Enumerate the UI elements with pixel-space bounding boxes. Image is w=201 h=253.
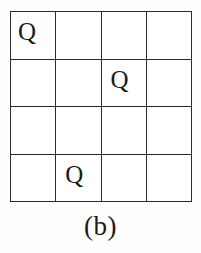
board-cell[interactable]: [147, 107, 192, 155]
queen-piece: Q: [102, 60, 146, 107]
board-cell[interactable]: Q: [56, 155, 101, 203]
board-cell[interactable]: [56, 12, 101, 60]
board-cell[interactable]: [11, 155, 56, 203]
board-cell[interactable]: [11, 107, 56, 155]
board-cell[interactable]: [147, 155, 192, 203]
board-cell[interactable]: [147, 60, 192, 108]
queen-piece: Q: [11, 12, 55, 59]
board-cell[interactable]: [11, 60, 56, 108]
board-cell[interactable]: Q: [102, 60, 147, 108]
board-cell[interactable]: [102, 12, 147, 60]
chessboard-grid: QQQ: [10, 11, 192, 202]
board-cell[interactable]: [56, 107, 101, 155]
board-cell[interactable]: [102, 155, 147, 203]
board-cell[interactable]: [56, 60, 101, 108]
board-cell[interactable]: [102, 107, 147, 155]
board-cell[interactable]: Q: [11, 12, 56, 60]
queen-piece: Q: [56, 155, 100, 202]
board-cell[interactable]: [147, 12, 192, 60]
figure-caption: (b): [0, 209, 201, 243]
figure-container: QQQ (b): [0, 0, 201, 253]
